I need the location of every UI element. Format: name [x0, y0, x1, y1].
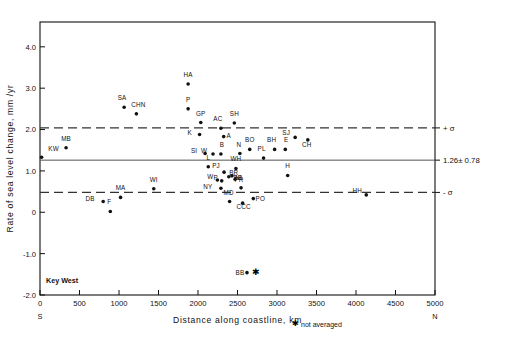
data-point-label-p-9: P — [186, 96, 190, 103]
data-point-gp-10[interactable] — [199, 121, 203, 125]
reference-label-mean: 1.26± 0.78 — [443, 156, 480, 165]
data-point-hh-39[interactable] — [364, 193, 368, 197]
legend-label: not averaged — [301, 321, 342, 329]
data-point-label-bb-40: BB — [236, 269, 245, 276]
data-point-label-p-27: P — [213, 174, 217, 181]
data-point-ac-15[interactable] — [219, 127, 223, 131]
x-tick-label-10: 5000 — [427, 299, 444, 308]
data-point-label-ma-4: MA — [116, 184, 126, 191]
data-point-label-l-18: L — [206, 154, 210, 161]
reference-label-plus-sigma: + σ — [443, 124, 455, 133]
data-point-label-md-31: MD — [223, 189, 233, 196]
y-tick-label-1: 3.0 — [25, 84, 36, 93]
data-point-k-11[interactable] — [198, 133, 202, 137]
data-point-ma-4[interactable] — [119, 196, 123, 200]
data-point-label-sa-5: SA — [118, 94, 127, 101]
data-point-label-n-19: N — [236, 141, 241, 148]
data-point-label-f-3: F — [107, 198, 111, 205]
data-point-bh-34[interactable] — [273, 148, 277, 152]
data-point-h-38[interactable] — [286, 174, 290, 178]
data-point-label-h-38: H — [285, 162, 290, 169]
data-point-label-kw-0: KW — [48, 145, 59, 152]
y-tick-label-2: 2.0 — [25, 125, 36, 134]
y-tick-label-0: 4.0 — [25, 43, 36, 52]
x-tick-label-8: 4000 — [348, 299, 365, 308]
data-point-label-pr-30: PR — [234, 176, 243, 183]
data-point-wi-7[interactable] — [152, 187, 156, 191]
data-point-label-a-16: A — [226, 132, 231, 139]
x-tick-label-1: 500 — [73, 299, 86, 308]
north-end-label: N — [432, 312, 437, 321]
data-point-label-po-33: PO — [256, 195, 266, 202]
data-point-pr-30[interactable] — [239, 186, 243, 190]
y-tick-label-5: -1.0 — [23, 250, 36, 259]
data-point-label-ny-29: NY — [203, 183, 213, 190]
data-point-label-ac-15: AC — [213, 115, 222, 122]
data-point-f-3[interactable] — [109, 210, 113, 214]
data-point-label-bo-20: BO — [245, 136, 255, 143]
data-point-label-db-2: DB — [86, 195, 95, 202]
data-point-md-31[interactable] — [228, 200, 232, 204]
y-tick-label-6: -2.0 — [23, 291, 36, 300]
x-tick-label-4: 2000 — [190, 299, 207, 308]
data-point-bo-20[interactable] — [248, 148, 252, 152]
data-point-kw-0[interactable] — [40, 155, 44, 159]
reference-label-minus-sigma: - σ — [443, 188, 453, 197]
data-point-sa-5[interactable] — [122, 105, 126, 109]
data-point-sh-17[interactable] — [233, 121, 237, 125]
data-point-label-si-12: SI — [191, 147, 197, 154]
data-point-label-ha-8: HA — [184, 71, 194, 78]
data-point-label-wi-7: WI — [150, 176, 158, 183]
data-point-label-pl-21: PL — [258, 145, 266, 152]
data-point-label-k-11: K — [187, 129, 192, 136]
data-point-e-35[interactable] — [283, 148, 287, 152]
data-point-ha-8[interactable] — [186, 82, 190, 86]
data-point-sj-36[interactable] — [293, 136, 297, 140]
data-point-label-gp-10: GP — [196, 110, 206, 117]
x-tick-label-3: 1500 — [150, 299, 167, 308]
x-tick-label-6: 3000 — [269, 299, 286, 308]
data-point-label-wh-23: WH — [230, 155, 241, 162]
legend-marker-icon: ✱ — [292, 319, 299, 328]
data-point-p-27[interactable] — [220, 179, 224, 183]
data-point-a-16[interactable] — [222, 135, 226, 139]
data-point-label-ccc-32: CCC — [237, 203, 251, 210]
y-tick-label-4: 0 — [32, 208, 36, 217]
data-point-label-ch-37: CH — [302, 141, 312, 148]
data-point-db-2[interactable] — [101, 200, 105, 204]
data-point-pj-22[interactable] — [222, 170, 226, 174]
data-point-p-9[interactable] — [186, 107, 190, 111]
x-tick-label-5: 2500 — [229, 299, 246, 308]
chart-svg: + σ1.26± 0.78- σ4.03.02.01.00-1.0-2.0050… — [0, 0, 510, 339]
x-axis-title: Distance along coastline, km — [173, 315, 302, 325]
x-tick-label-9: 4500 — [387, 299, 404, 308]
x-tick-label-0: 0 — [38, 299, 42, 308]
data-point-label-e-35: E — [284, 136, 288, 143]
data-point-b-14[interactable] — [219, 152, 223, 156]
data-point-label-b-14: B — [220, 141, 224, 148]
data-point-label-pj-22: PJ — [212, 162, 220, 169]
data-point-marker-40[interactable]: ✱ — [252, 267, 260, 277]
key-west-annotation: Key West — [46, 276, 79, 285]
data-point-po-33[interactable] — [252, 197, 256, 201]
data-point-label-sj-36: SJ — [282, 129, 290, 136]
data-point-label-sh-17: SH — [230, 110, 239, 117]
data-point-bb-40[interactable] — [245, 271, 249, 275]
data-point-mb-1[interactable] — [64, 146, 68, 150]
x-tick-label-7: 3500 — [308, 299, 325, 308]
data-point-ny-29[interactable] — [219, 186, 223, 190]
data-point-l-18[interactable] — [206, 165, 210, 169]
data-point-label-mb-1: MB — [61, 135, 71, 142]
data-point-label-chn-6: CHN — [131, 101, 145, 108]
scatter-chart-figure: + σ1.26± 0.78- σ4.03.02.01.00-1.0-2.0050… — [0, 0, 510, 339]
data-point-label-hh-39: HH — [353, 187, 363, 194]
x-tick-label-2: 1000 — [111, 299, 128, 308]
south-end-label: S — [38, 312, 43, 321]
data-point-label-bh-34: BH — [267, 136, 276, 143]
y-tick-label-3: 1.0 — [25, 167, 36, 176]
y-axis-title: Rate of sea level change, mm /yr — [5, 84, 15, 232]
data-point-chn-6[interactable] — [135, 112, 139, 116]
data-point-w-13[interactable] — [211, 152, 215, 156]
data-point-pl-21[interactable] — [262, 156, 266, 160]
